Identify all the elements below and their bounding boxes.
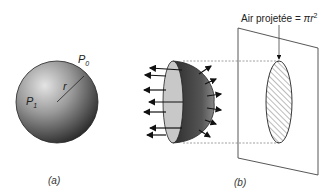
figure-canvas (0, 0, 335, 196)
projected-area-label: Air projetée = πr2 (241, 12, 318, 24)
caption-b: (b) (234, 178, 246, 188)
label-p1: P1 (26, 96, 37, 109)
panel-b (144, 25, 318, 175)
label-radius: r (63, 81, 67, 92)
projected-area (266, 61, 292, 143)
caption-a: (a) (48, 176, 60, 186)
label-p0: P0 (78, 54, 89, 67)
